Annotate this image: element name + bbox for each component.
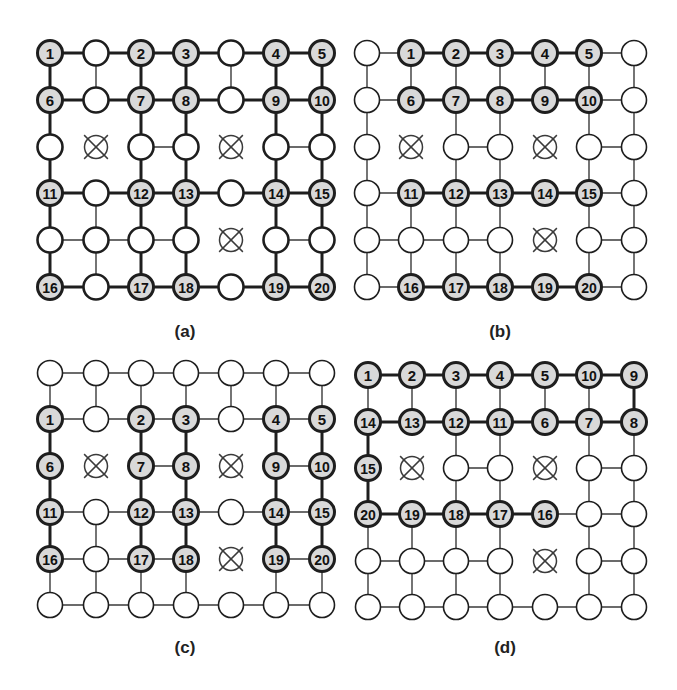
numbered-node: 8 [622,410,647,435]
node-number: 9 [272,458,280,475]
node-number: 8 [182,458,190,475]
node-number: 17 [448,280,464,296]
empty-node [577,135,602,160]
empty-node [264,593,289,618]
numbered-node: 9 [264,454,289,479]
empty-node [355,275,380,300]
numbered-node: 10 [577,88,602,113]
numbered-node: 14 [264,500,289,525]
empty-node [84,88,109,113]
panel-label-a: (a) [175,322,196,342]
numbered-node: 10 [577,363,602,388]
numbered-node: 1 [38,407,63,432]
node-number: 13 [178,186,194,202]
numbered-node: 11 [399,181,424,206]
numbered-node: 12 [444,181,469,206]
empty-node [355,135,380,160]
blocked-node-icon [219,135,243,159]
numbered-node: 6 [533,410,558,435]
numbered-node: 7 [129,88,154,113]
empty-node [84,407,109,432]
numbered-node: 10 [310,88,335,113]
node-number: 12 [133,186,149,202]
empty-node [84,275,109,300]
blocked-node-icon [84,454,108,478]
empty-node [84,41,109,66]
empty-node [84,593,109,618]
empty-node [355,88,380,113]
numbered-node: 15 [356,456,381,481]
numbered-node: 13 [400,410,425,435]
node-number: 6 [541,414,549,431]
empty-node [355,181,380,206]
numbered-node: 9 [264,88,289,113]
empty-node [219,41,244,66]
node-number: 4 [272,45,281,62]
numbered-node: 1 [399,41,424,66]
network-diagram-canvas: 1234567891011121314151617181920123456789… [0,0,677,690]
node-number: 9 [541,92,549,109]
node-number: 17 [492,507,508,523]
numbered-node: 4 [533,41,558,66]
node-number: 2 [452,45,460,62]
node-number: 3 [496,45,504,62]
node-number: 12 [448,186,464,202]
node-number: 7 [137,92,145,109]
empty-node [129,228,154,253]
numbered-node: 8 [488,88,513,113]
node-number: 19 [268,552,284,568]
node-number: 1 [364,367,372,384]
node-number: 3 [452,367,460,384]
numbered-node: 11 [38,181,63,206]
numbered-node: 5 [310,41,335,66]
node-number: 16 [42,280,58,296]
empty-node [622,228,647,253]
node-number: 3 [182,411,190,428]
numbered-node: 2 [129,41,154,66]
blocked-node-icon [219,454,243,478]
empty-node [356,595,381,620]
numbered-node: 2 [444,41,469,66]
node-number: 18 [178,280,194,296]
numbered-node: 6 [38,454,63,479]
numbered-node: 8 [174,454,199,479]
empty-node [622,135,647,160]
panel-a: 1234567891011121314151617181920 [38,41,335,300]
node-number: 5 [541,367,549,384]
numbered-node: 20 [356,502,381,527]
numbered-node: 3 [174,407,199,432]
blocked-node-icon [399,135,423,159]
node-number: 19 [268,280,284,296]
empty-node [444,595,469,620]
node-number: 16 [403,280,419,296]
numbered-node: 16 [38,547,63,572]
empty-node [219,88,244,113]
empty-node [219,361,244,386]
node-number: 2 [137,411,145,428]
node-number: 18 [448,507,464,523]
numbered-node: 17 [129,547,154,572]
numbered-node: 19 [533,275,558,300]
node-number: 10 [581,368,597,384]
numbered-node: 11 [38,500,63,525]
empty-node [622,275,647,300]
node-number: 8 [496,92,504,109]
node-number: 18 [178,552,194,568]
numbered-node: 3 [444,363,469,388]
empty-node [129,593,154,618]
empty-node [444,228,469,253]
numbered-node: 14 [356,410,381,435]
node-number: 9 [272,92,280,109]
node-number: 18 [492,280,508,296]
node-number: 4 [272,411,281,428]
node-number: 8 [630,414,638,431]
blocked-node-icon [533,228,557,252]
blocked-node-icon [219,228,243,252]
numbered-node: 14 [533,181,558,206]
empty-node [622,41,647,66]
empty-node [355,41,380,66]
empty-node [84,547,109,572]
empty-node [356,549,381,574]
panel-d: 1234510914131211678152019181716 [356,363,647,620]
node-number: 4 [541,45,550,62]
